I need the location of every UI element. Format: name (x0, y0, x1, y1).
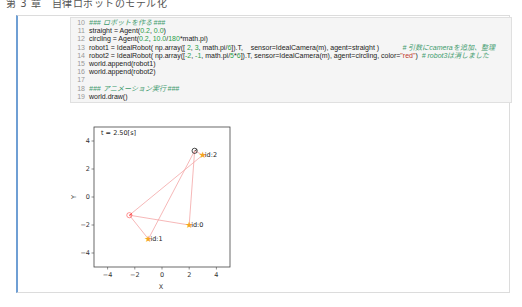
code-line: 11straight = Agent(0.2, 0.0) (71, 27, 511, 35)
code-line: 16world.append(robot2) (71, 68, 511, 76)
code-text: circling = Agent(0.2, 10.0/180*math.pi) (89, 35, 208, 43)
line-number: 12 (71, 35, 89, 43)
code-text: world.append(robot1) (89, 60, 156, 68)
code-line: 13robot1 = IdealRobot( np.array([ 2, 3, … (71, 44, 511, 52)
landmark-label: id:0 (191, 221, 203, 229)
code-text: straight = Agent(0.2, 0.0) (89, 27, 166, 35)
code-text: ### アニメーション実行 ### (89, 85, 179, 93)
x-tick-label: −2 (130, 271, 140, 279)
y-axis-label: Y (70, 195, 78, 200)
code-text: ### ロボットを作る ### (89, 19, 165, 27)
line-number: 15 (71, 60, 89, 68)
y-tick-label: −2 (80, 221, 90, 229)
y-ticks: 420−2−4 (80, 137, 94, 257)
landmark-label: id:2 (205, 151, 217, 159)
code-line: 19world.draw() (71, 93, 511, 101)
x-axis-label: X (159, 283, 164, 290)
time-label: t = 2.50[s] (101, 129, 136, 137)
plot-frame (94, 127, 230, 267)
plot-svg: ★id:0★id:1★id:2 t = 2.50[s] −4−2024 420−… (40, 110, 240, 290)
code-line: 15world.append(robot1) (71, 60, 511, 68)
line-number: 18 (71, 85, 89, 93)
code-line: 10### ロボットを作る ### (71, 19, 511, 27)
code-line: 14robot2 = IdealRobot( np.array([-2, -1,… (71, 52, 511, 60)
code-line: 17 (71, 76, 511, 84)
code-line: 18### アニメーション実行 ### (71, 85, 511, 93)
line-number: 11 (71, 27, 89, 35)
plot-output: ★id:0★id:1★id:2 t = 2.50[s] −4−2024 420−… (40, 110, 240, 290)
y-tick-label: 4 (86, 137, 90, 145)
code-text: robot2 = IdealRobot( np.array([-2, -1, m… (89, 52, 489, 60)
code-text: robot1 = IdealRobot( np.array([ 2, 3, ma… (89, 44, 495, 52)
y-tick-label: 2 (86, 165, 90, 173)
landmark-label: id:1 (150, 235, 162, 243)
line-number: 19 (71, 93, 89, 101)
line-number: 14 (71, 52, 89, 60)
y-tick-label: 0 (86, 193, 90, 201)
y-tick-label: −4 (80, 249, 90, 257)
line-number: 17 (71, 76, 89, 84)
x-tick-label: 2 (187, 271, 191, 279)
code-line: 12circling = Agent(0.2, 10.0/180*math.pi… (71, 35, 511, 43)
line-number: 16 (71, 68, 89, 76)
page-header: 第 3 章 自律ロボットのモデル化 (6, 0, 167, 10)
line-number: 10 (71, 19, 89, 27)
x-tick-label: 0 (160, 271, 164, 279)
code-text: world.draw() (89, 93, 128, 101)
code-text: world.append(robot2) (89, 68, 156, 76)
x-tick-label: −4 (103, 271, 113, 279)
code-editor[interactable]: 10### ロボットを作る ###11straight = Agent(0.2,… (70, 17, 512, 103)
x-ticks: −4−2024 (103, 267, 219, 279)
line-number: 13 (71, 44, 89, 52)
x-tick-label: 4 (214, 271, 218, 279)
